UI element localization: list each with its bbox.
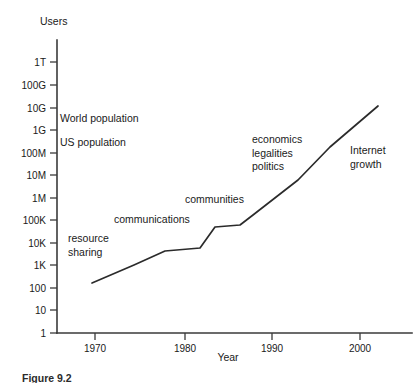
chart-annotations: World populationUS populationresourcesha… [60, 112, 386, 258]
y-axis-ticks: 1101001K10K100K1M10M100M1G10G100G1T [21, 57, 57, 339]
y-tick-label-100G: 100G [22, 80, 47, 91]
annotation-internet-growth-line1: Internet [350, 144, 386, 156]
figure-container: Users 1101001K10K100K1M10M100M1G10G100G1… [0, 0, 419, 383]
y-tick-label-1K: 1K [34, 260, 47, 271]
annotation-world-population: World population [60, 112, 139, 124]
y-tick-label-100M: 100M [21, 148, 46, 159]
annotation-communities: communities [185, 193, 244, 205]
y-tick-label-100K: 100K [23, 215, 47, 226]
x-tick-label-1980: 1980 [174, 343, 197, 354]
x-tick-label-2000: 2000 [349, 343, 372, 354]
y-tick-label-1T: 1T [34, 57, 46, 68]
y-tick-label-10K: 10K [28, 238, 46, 249]
annotation-legalities: legalities [252, 147, 293, 159]
annotation-internet-growth-line2: growth [350, 158, 382, 170]
annotation-communications: communications [114, 213, 190, 225]
y-tick-label-10: 10 [35, 305, 47, 316]
y-axis-title: Users [40, 15, 67, 27]
axis-lines [57, 40, 412, 333]
annotation-resource-sharing-line2: sharing [68, 246, 103, 258]
annotation-economics: economics [252, 133, 302, 145]
y-tick-label-10G: 10G [27, 103, 46, 114]
y-tick-label-10M: 10M [27, 170, 46, 181]
y-tick-label-1: 1 [40, 328, 46, 339]
annotation-us-population: US population [60, 136, 126, 148]
annotation-resource-sharing-line1: resource [68, 232, 109, 244]
y-tick-label-100: 100 [29, 283, 46, 294]
annotation-politics: politics [252, 160, 284, 172]
y-tick-label-1G: 1G [33, 125, 47, 136]
users-vs-year-log-chart: Users 1101001K10K100K1M10M100M1G10G100G1… [0, 0, 419, 383]
y-tick-label-1M: 1M [32, 193, 46, 204]
x-tick-label-1990: 1990 [261, 343, 284, 354]
x-axis-title: Year [217, 351, 239, 363]
figure-caption: Figure 9.2 [22, 372, 72, 383]
x-tick-label-1970: 1970 [84, 343, 107, 354]
